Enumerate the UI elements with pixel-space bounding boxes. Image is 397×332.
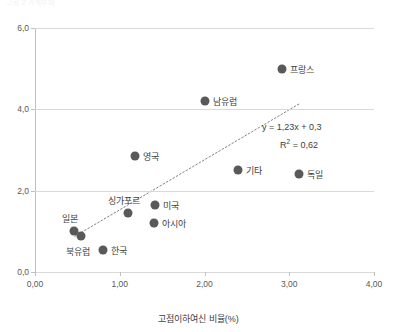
x-tick-mark (374, 272, 375, 276)
data-point-marker (76, 232, 85, 241)
data-point-label: 기타 (246, 164, 262, 177)
plot-area (35, 28, 374, 272)
data-point-marker (295, 170, 304, 179)
gridline-y (35, 28, 374, 29)
data-point-marker (98, 245, 107, 254)
data-point-label: 일본 (62, 212, 78, 225)
data-point-label: 싱가포르 (108, 194, 140, 207)
trendline (35, 28, 374, 272)
data-point-marker (200, 97, 209, 106)
data-point-label: 독일 (307, 168, 323, 181)
data-point-marker (131, 152, 140, 161)
x-tick-label: 4,00 (366, 279, 383, 289)
x-tick-label: 2,00 (196, 279, 213, 289)
data-point-label: 한국 (111, 244, 127, 257)
y-tick-label: 4,0 (0, 104, 35, 114)
trendline-r2: R2 = 0,62 (280, 140, 318, 150)
data-point-label: 영국 (143, 150, 159, 163)
data-point-marker (278, 64, 287, 73)
x-tick-label: 1,00 (111, 279, 128, 289)
x-tick-label: 3,00 (281, 279, 298, 289)
data-point-label: 프랑스 (290, 63, 314, 76)
data-point-marker (234, 166, 243, 175)
y-tick-label: 2,0 (0, 186, 35, 196)
x-tick-mark (35, 272, 36, 276)
x-tick-mark (289, 272, 290, 276)
data-point-label: 미국 (163, 199, 179, 212)
gridline-y (35, 191, 374, 192)
data-point-marker (151, 200, 160, 209)
x-tick-label: 0,00 (27, 279, 44, 289)
y-tick-label: 0,0 (0, 267, 35, 277)
x-axis-title: 고점이하여신 비율(%) (0, 312, 397, 325)
data-point-marker (149, 219, 158, 228)
trendline-equation: y = 1,23x + 0,3 (262, 122, 322, 132)
data-point-label: 남유럽 (213, 95, 237, 108)
x-tick-mark (205, 272, 206, 276)
chart-title-faint: 그림 2 가계부채 (6, 0, 54, 7)
data-point-label: 아시아 (162, 217, 186, 230)
data-point-label: 북유럽 (66, 245, 90, 258)
scatter-chart: 그림 2 가계부채 고점이하여신 비율(%) 0,02,04,06,00,001… (0, 0, 397, 332)
data-point-marker (124, 209, 133, 218)
x-tick-mark (120, 272, 121, 276)
y-tick-label: 6,0 (0, 23, 35, 33)
gridline-y (35, 109, 374, 110)
